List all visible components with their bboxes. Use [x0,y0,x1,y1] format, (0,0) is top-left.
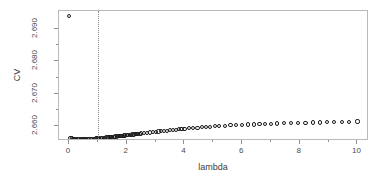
y-axis-tick-label: 2.660 [30,115,39,135]
x-axis-tick-label: 4 [181,146,185,155]
y-axis-tick-label: 2.690 [30,18,39,38]
x-axis-tick [183,140,184,144]
data-point [195,126,199,130]
x-axis-tick-label: 8 [297,146,301,155]
data-point [275,121,279,125]
x-axis-tick-minor [97,140,98,142]
data-point [228,123,232,127]
x-axis-tick-minor [270,140,271,142]
y-axis-tick-minor [56,109,58,110]
x-axis-tick-minor [212,140,213,142]
data-point [325,120,329,124]
data-point [234,123,238,127]
x-axis-tick-label: 2 [124,146,128,155]
data-point [240,123,244,127]
x-axis-tick-label: 10 [352,146,361,155]
y-axis-tick [54,125,58,126]
vertical-reference-line [98,11,99,139]
data-point [289,121,293,125]
data-point [217,124,221,128]
data-point [340,120,344,124]
data-point [296,121,300,125]
x-axis-tick [241,140,242,144]
x-axis-tick [126,140,127,144]
chart-screenshot: lambda CV 02468102.6602.6702.6802.690 [0,0,385,181]
x-axis-tick-label: 0 [66,146,70,155]
y-axis-tick-label: 2.680 [30,50,39,70]
x-axis-tick [299,140,300,144]
data-point [182,127,186,131]
data-point [347,120,351,124]
data-point [332,120,336,124]
data-point [246,122,250,126]
data-point [252,122,256,126]
data-point [282,121,286,125]
x-axis-tick-minor [155,140,156,142]
data-point [223,124,227,128]
x-axis-title: lambda [198,162,228,172]
data-point [208,125,212,129]
data-point [355,119,359,123]
data-point [67,14,71,18]
y-axis-tick-label: 2.670 [30,83,39,103]
x-axis-tick [356,140,357,144]
data-point [303,121,307,125]
y-axis-tick [54,28,58,29]
y-axis-tick-minor [56,44,58,45]
x-axis-tick-label: 6 [239,146,243,155]
y-axis-tick-minor [56,77,58,78]
plot-area [58,10,368,140]
data-point [263,122,267,126]
scatter-series-cv [59,11,367,139]
data-point [318,120,322,124]
data-point [269,122,273,126]
x-axis-tick [68,140,69,144]
y-axis-tick [54,93,58,94]
y-axis-tick [54,60,58,61]
y-axis-title: CV [12,69,22,82]
x-axis-tick-minor [328,140,329,142]
data-point [311,120,315,124]
data-point [257,122,261,126]
